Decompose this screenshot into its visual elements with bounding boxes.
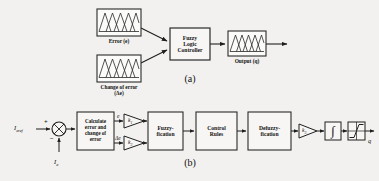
- output-signal-label: q: [368, 137, 371, 144]
- mf-plot-error: [97, 9, 141, 36]
- summing-junction-symbol: [52, 122, 66, 136]
- calculate-error-box: [77, 112, 114, 150]
- mf-plot-change-of-error: [97, 55, 141, 82]
- fuzzy-logic-controller-box: [170, 28, 210, 60]
- reference-current-label: Iaref: [14, 124, 23, 133]
- output-caption: Output (q): [207, 58, 287, 64]
- panel-a-label: (a): [170, 73, 210, 84]
- panel-b-label: (b): [170, 157, 210, 168]
- mf-plot-output: [228, 31, 266, 56]
- plus-sign: +: [44, 118, 48, 125]
- integrator-box: [325, 122, 341, 140]
- gain-k2-label: k2: [128, 139, 132, 147]
- change-of-error-signal-label: Δe: [115, 135, 121, 141]
- gain-k1-triangle: [124, 114, 144, 128]
- minus-sign: −: [50, 135, 54, 142]
- defuzzification-box: [248, 112, 291, 150]
- figure-canvas: FuzzyLogicController Error (e) Change of…: [0, 0, 379, 181]
- gain-k2-triangle: [124, 136, 144, 150]
- change-of-error-caption: Change of error(Δe): [79, 84, 159, 96]
- error-caption: Error (e): [79, 38, 159, 44]
- gain-k1-label: k1: [128, 117, 132, 125]
- gain-k3-label: k3: [302, 127, 306, 135]
- diagram-vectors: [0, 0, 379, 181]
- fuzzification-box: [148, 112, 183, 150]
- conn-derror-to-flc: [141, 50, 167, 63]
- control-rules-box: [196, 112, 237, 150]
- error-signal-label: e: [117, 113, 119, 119]
- feedback-current-label: Ia: [54, 158, 58, 167]
- limiter-box: [348, 122, 365, 140]
